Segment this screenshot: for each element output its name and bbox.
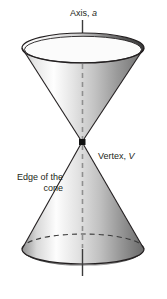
vertex-label: Vertex, V: [98, 151, 135, 162]
edge-of-cone-label: Edge of thecone: [0, 172, 63, 194]
axis-label-symbol: a: [92, 8, 97, 18]
vertex-dot: [79, 139, 86, 145]
vertex-label-symbol: V: [129, 151, 135, 161]
vertex-label-text: Vertex,: [98, 151, 129, 161]
edge-label-line1: Edge of the: [17, 172, 63, 182]
edge-label-line2: cone: [43, 183, 63, 193]
double-cone-illustration: [0, 0, 167, 299]
axis-label-text: Axis,: [70, 8, 92, 18]
axis-label: Axis, a: [0, 8, 167, 19]
upper-nappe: [22, 32, 144, 142]
cone-diagram: Axis, a Vertex, V Edge of thecone: [0, 0, 167, 299]
